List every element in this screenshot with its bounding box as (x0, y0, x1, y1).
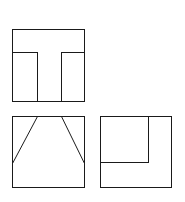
front-view (13, 117, 85, 188)
front-view-outline (13, 117, 85, 188)
front-view-edge (62, 117, 85, 164)
top-view (13, 30, 85, 102)
side-view-outline (101, 117, 172, 188)
side-view (101, 117, 172, 188)
top-view-outline (13, 30, 85, 102)
front-view-edge (13, 117, 38, 164)
projection-diagram (0, 0, 185, 202)
